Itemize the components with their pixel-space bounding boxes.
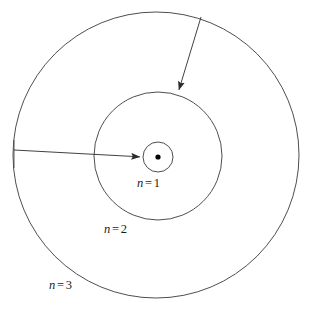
shell-label-n3-equals: = bbox=[55, 278, 65, 292]
shell-label-n3-value: 3 bbox=[66, 278, 72, 292]
shell-label-n1-value: 1 bbox=[154, 176, 160, 190]
shell-diagram-svg bbox=[0, 0, 309, 312]
shell-circle-n3 bbox=[13, 12, 299, 298]
shell-label-n2-equals: = bbox=[110, 222, 120, 236]
shell-label-n1-equals: = bbox=[143, 176, 153, 190]
radius-arrow-horizontal bbox=[14, 150, 140, 157]
shell-label-n2-value: 2 bbox=[121, 222, 127, 236]
shell-label-n2: n=2 bbox=[104, 222, 127, 237]
shell-label-n1: n=1 bbox=[137, 176, 160, 191]
radius-arrow-diagonal bbox=[179, 17, 201, 90]
shell-label-n3: n=3 bbox=[49, 278, 72, 293]
nucleus-dot bbox=[155, 154, 160, 159]
bohr-model-figure: n=1 n=2 n=3 bbox=[0, 0, 309, 312]
